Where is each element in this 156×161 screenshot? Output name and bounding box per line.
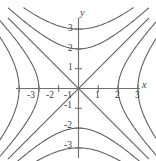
x-tick-label-1: 1 (95, 91, 100, 101)
hyperbola-contour-figure: x y -3 -2 -1 1 2 3 3 2 1 -1 -2 -3 (0, 0, 156, 161)
axes-group (16, 18, 140, 158)
x-tick-label-neg3: -3 (27, 91, 35, 101)
curve-right-branch-c9 (138, 34, 156, 143)
y-tick-label-1: 1 (68, 63, 73, 73)
y-tick-label-neg3: -3 (64, 141, 72, 151)
plot-canvas (0, 0, 156, 161)
x-tick-label-neg2: -2 (46, 91, 54, 101)
y-tick-label-3: 3 (68, 24, 73, 34)
x-tick-label-3: 3 (135, 91, 140, 101)
x-axis-label: x (142, 80, 146, 90)
y-tick-label-neg1: -1 (64, 101, 72, 111)
y-tick-label-2: 2 (68, 44, 73, 54)
y-axis-label: y (80, 8, 84, 18)
x-tick-label-2: 2 (115, 91, 120, 101)
y-tick-label-neg2: -2 (64, 121, 72, 131)
